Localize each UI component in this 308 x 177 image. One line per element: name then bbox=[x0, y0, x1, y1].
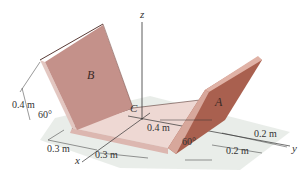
dim-center-offset: 0.4 m bbox=[147, 122, 170, 133]
x-axis-label: x bbox=[74, 154, 80, 166]
z-axis-label: z bbox=[139, 8, 145, 20]
point-c-label: C bbox=[130, 102, 138, 114]
dim-base-y-2: 0.2 m bbox=[226, 145, 249, 156]
diagram-canvas: z x y B A C 0.4 m 60° 0.3 m 0.3 m 0.4 m … bbox=[0, 0, 308, 177]
y-axis-label: y bbox=[291, 142, 297, 154]
plate-b-label: B bbox=[87, 68, 95, 82]
dim-base-x-1: 0.3 m bbox=[47, 143, 70, 154]
dim-angle-b: 60° bbox=[38, 109, 52, 120]
plate-a-label: A bbox=[214, 95, 223, 109]
dim-plate-b-height: 0.4 m bbox=[12, 99, 35, 110]
dim-angle-a: 60° bbox=[182, 136, 196, 147]
dim-base-x-2: 0.3 m bbox=[95, 149, 118, 160]
plate-assembly-figure: z x y B A C 0.4 m 60° 0.3 m 0.3 m 0.4 m … bbox=[0, 0, 308, 177]
dim-base-y-1: 0.2 m bbox=[254, 128, 277, 139]
